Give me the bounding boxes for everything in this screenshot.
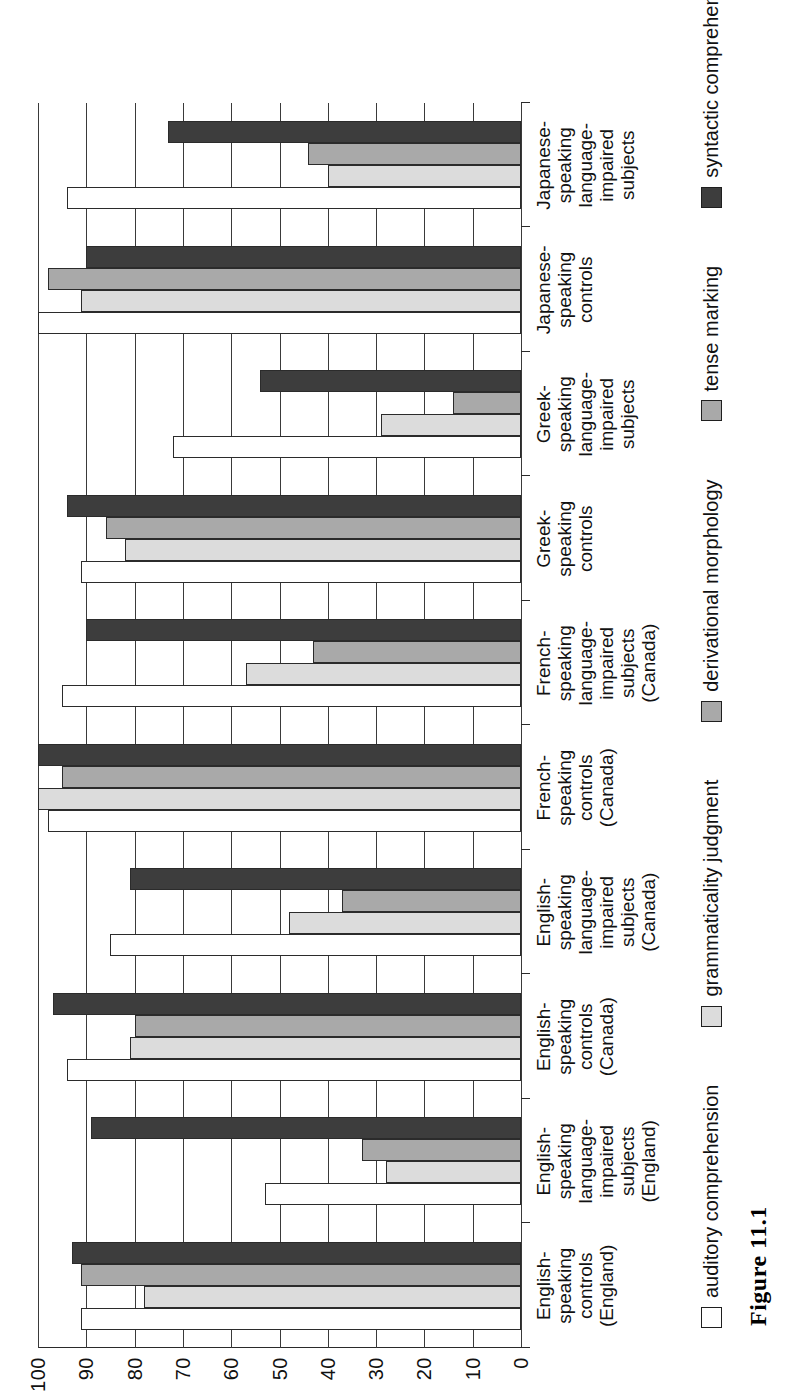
figure-caption: Figure 11.1	[745, 1206, 772, 1326]
category-label-line: (England)	[638, 1101, 659, 1222]
legend-item: syntactic comprehension	[700, 0, 723, 208]
category-label-line: English-	[533, 1226, 554, 1347]
bar-group	[38, 1099, 521, 1224]
bar-group	[38, 975, 521, 1100]
bar	[130, 1037, 521, 1059]
group-separator-tick	[521, 1098, 530, 1099]
bar	[67, 495, 521, 517]
bar	[125, 539, 521, 561]
category-label: English-speakinglanguage-impairedsubject…	[533, 1099, 683, 1224]
bar-group	[38, 601, 521, 726]
category-label-line: controls	[575, 977, 596, 1098]
category-label-line: controls	[575, 728, 596, 849]
bar	[289, 912, 521, 934]
category-label-line: controls	[575, 230, 596, 351]
bar	[81, 290, 521, 312]
category-label-line: language-	[575, 1101, 596, 1222]
category-label-line: Japanese-	[533, 105, 554, 226]
category-label-line: speaking	[554, 728, 575, 849]
legend-item: tense marking	[700, 266, 723, 422]
bar	[48, 810, 521, 832]
category-label-line: (England)	[596, 1226, 617, 1347]
category-label-line: (Canada)	[638, 852, 659, 973]
bar-group	[38, 726, 521, 851]
value-axis-tick-label: 0	[510, 1348, 533, 1369]
legend-label: grammaticality judgment	[700, 780, 723, 997]
bar	[308, 143, 521, 165]
bar	[86, 246, 521, 268]
category-label-line: speaking	[554, 977, 575, 1098]
value-axis-tick-label: 60	[220, 1348, 243, 1380]
chart-legend: auditory comprehensiongrammaticality jud…	[700, 58, 723, 1328]
bar	[67, 1059, 521, 1081]
category-label-line: (Canada)	[638, 603, 659, 724]
value-axis-tick-label: 20	[413, 1348, 436, 1380]
bar	[168, 121, 521, 143]
legend-label: auditory comprehension	[700, 1085, 723, 1298]
bar	[246, 663, 521, 685]
bar	[38, 788, 521, 810]
bar	[38, 312, 521, 334]
category-label-line: subjects	[617, 354, 638, 475]
category-labels: English-speakingcontrols(England)English…	[533, 103, 683, 1348]
legend-label: syntactic comprehension	[700, 0, 723, 178]
bar	[362, 1139, 521, 1161]
legend-item: grammaticality judgment	[700, 780, 723, 1027]
bar	[72, 1242, 521, 1264]
category-label-line: English-	[533, 1101, 554, 1222]
bar	[313, 641, 521, 663]
category-label-line: controls	[575, 1226, 596, 1347]
bar	[67, 187, 521, 209]
bar	[260, 370, 521, 392]
group-separator-tick	[521, 974, 530, 975]
legend-item: auditory comprehension	[700, 1085, 723, 1328]
group-separator-tick	[521, 102, 530, 103]
bar-group	[38, 103, 521, 228]
plot-area: 1009080706050403020100	[38, 103, 521, 1348]
bar-group	[38, 850, 521, 975]
group-separator-tick	[521, 227, 530, 228]
category-label-line: controls	[575, 479, 596, 600]
category-label-line: impaired	[596, 603, 617, 724]
value-axis-tick-label: 90	[75, 1348, 98, 1380]
bar	[81, 561, 521, 583]
category-label-line: impaired	[596, 354, 617, 475]
legend-swatch	[701, 400, 722, 421]
category-label-line: language-	[575, 603, 596, 724]
group-separator-tick	[521, 600, 530, 601]
category-label: Japanese-speakinglanguage-impairedsubjec…	[533, 103, 683, 228]
category-label: English-speakingcontrols(England)	[533, 1224, 683, 1349]
bar	[81, 1308, 521, 1330]
bar	[62, 685, 521, 707]
group-separator-tick	[521, 351, 530, 352]
category-label-line: speaking	[554, 603, 575, 724]
category-label: Japanese-speakingcontrols	[533, 228, 683, 353]
legend-label: tense marking	[700, 266, 723, 392]
bar	[62, 766, 521, 788]
category-label-line: Japanese-	[533, 230, 554, 351]
value-axis-tick-label: 80	[123, 1348, 146, 1380]
bar	[91, 1117, 521, 1139]
category-label-line: speaking	[554, 852, 575, 973]
category-label-line: speaking	[554, 479, 575, 600]
category-label-line: English-	[533, 977, 554, 1098]
bar	[381, 414, 521, 436]
group-separator-tick	[521, 1223, 530, 1224]
value-axis-tick-label: 30	[365, 1348, 388, 1380]
bar	[386, 1161, 521, 1183]
group-separator-tick	[521, 725, 530, 726]
category-label-line: impaired	[596, 105, 617, 226]
category-label-line: language-	[575, 354, 596, 475]
bar	[453, 392, 521, 414]
bar-group	[38, 228, 521, 353]
legend-item: derivational morphology	[700, 479, 723, 721]
category-label-line: Greek-	[533, 479, 554, 600]
bar-group	[38, 477, 521, 602]
gridline	[521, 103, 522, 1348]
bar-group	[38, 1224, 521, 1349]
value-axis-tick-label: 50	[268, 1348, 291, 1380]
category-label-line: (Canada)	[596, 977, 617, 1098]
category-label-line: subjects	[617, 1101, 638, 1222]
